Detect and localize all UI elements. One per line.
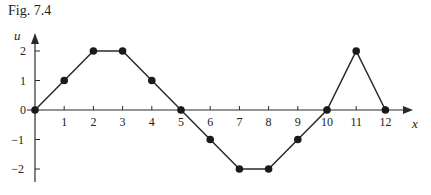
y-tick-label: 0 <box>20 103 26 117</box>
line-chart: xu123456789101112210−1−2 <box>0 0 431 195</box>
data-point <box>265 165 273 173</box>
x-tick-label: 2 <box>90 115 96 129</box>
x-tick-label: 5 <box>178 115 184 129</box>
data-point <box>177 106 185 114</box>
x-axis-arrow-icon <box>403 106 413 114</box>
y-tick-label: 2 <box>20 44 26 58</box>
data-point <box>382 106 390 114</box>
y-tick-label: −1 <box>11 133 24 147</box>
data-point <box>352 47 360 55</box>
y-axis-label: u <box>14 28 21 43</box>
x-tick-label: 12 <box>379 115 391 129</box>
x-tick-label: 7 <box>236 115 242 129</box>
x-tick-label: 3 <box>120 115 126 129</box>
data-point <box>119 47 127 55</box>
data-point <box>236 165 244 173</box>
y-tick-label: 1 <box>20 74 26 88</box>
x-tick-label: 4 <box>149 115 155 129</box>
data-point <box>90 47 98 55</box>
y-axis-arrow-icon <box>31 33 39 44</box>
data-point <box>60 77 68 85</box>
x-tick-label: 8 <box>266 115 272 129</box>
data-point <box>148 77 156 85</box>
x-tick-label: 10 <box>321 115 333 129</box>
y-tick-label: −2 <box>11 162 24 176</box>
data-point <box>206 136 214 144</box>
x-tick-label: 9 <box>295 115 301 129</box>
data-point <box>323 106 331 114</box>
x-tick-label: 11 <box>350 115 362 129</box>
data-point <box>31 106 39 114</box>
x-axis-label: x <box>411 116 418 131</box>
data-point <box>294 136 302 144</box>
x-tick-label: 1 <box>61 115 67 129</box>
x-tick-label: 6 <box>207 115 213 129</box>
